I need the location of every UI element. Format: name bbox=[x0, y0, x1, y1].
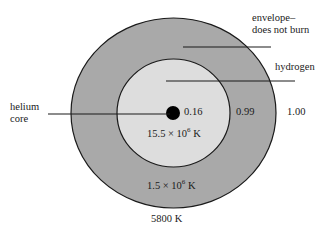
helium-label-line2: core bbox=[10, 113, 39, 125]
radius-surface-label: 1.00 bbox=[287, 106, 305, 118]
radius-core-label: 0.16 bbox=[184, 106, 202, 118]
temp-center-unit: K bbox=[191, 128, 201, 139]
temp-mid-unit: K bbox=[185, 180, 195, 191]
envelope-label-line1: envelope– bbox=[252, 12, 309, 24]
mid-temperature-label: 1.5 × 106 K bbox=[147, 176, 196, 192]
central-temperature-label: 15.5 × 106 K bbox=[147, 124, 201, 140]
helium-core bbox=[166, 106, 180, 120]
envelope-label: envelope– does not burn bbox=[252, 12, 309, 36]
helium-core-label: helium core bbox=[10, 101, 39, 125]
temp-center-base: 15.5 × 10 bbox=[147, 128, 187, 139]
radius-hydrogen-label: 0.99 bbox=[236, 106, 254, 118]
surface-temperature-label: 5800 K bbox=[151, 213, 182, 225]
temp-mid-base: 1.5 × 10 bbox=[147, 180, 182, 191]
hydrogen-label: hydrogen bbox=[275, 61, 315, 73]
envelope-label-line2: does not burn bbox=[252, 24, 309, 36]
helium-label-line1: helium bbox=[10, 101, 39, 113]
